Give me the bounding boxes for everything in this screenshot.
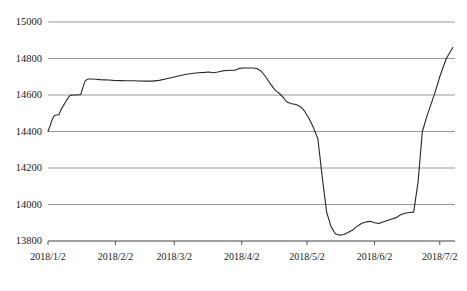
chart-canvas <box>0 0 467 291</box>
y-axis-tick-label: 14800 <box>0 53 42 64</box>
y-axis-tick-label: 13800 <box>0 235 42 246</box>
y-axis-tick-label: 15000 <box>0 16 42 27</box>
data-series-line <box>48 48 453 236</box>
x-axis-tick-label: 2018/1/2 <box>10 251 86 262</box>
y-axis-tick-label: 14200 <box>0 162 42 173</box>
y-axis-tick-label: 14400 <box>0 126 42 137</box>
gridline-group <box>48 22 455 241</box>
x-axis-tick-label: 2018/5/2 <box>269 251 345 262</box>
xtick-group <box>48 241 440 245</box>
y-axis-tick-label: 14600 <box>0 89 42 100</box>
x-axis-tick-label: 2018/3/2 <box>136 251 212 262</box>
y-axis-tick-label: 14000 <box>0 199 42 210</box>
line-chart: 15000148001460014400142001400013800 2018… <box>0 0 467 291</box>
x-axis-tick-label: 2018/7/2 <box>402 251 467 262</box>
